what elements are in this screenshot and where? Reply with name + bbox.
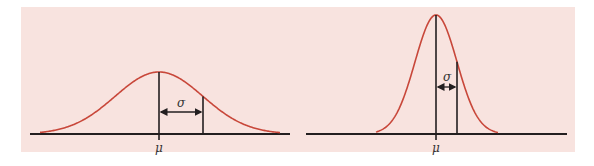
right-mu-label: μ: [432, 141, 440, 155]
narrow-distribution: σ μ: [306, 15, 567, 155]
right-sigma-label: σ: [443, 70, 452, 84]
left-sigma-label: σ: [177, 96, 186, 110]
normal-distribution-figure: σ μ σ μ: [0, 0, 594, 166]
left-mu-label: μ: [155, 141, 163, 155]
left-bell-curve: [40, 72, 280, 133]
right-bell-curve: [376, 15, 498, 132]
wide-distribution: σ μ: [30, 72, 290, 155]
